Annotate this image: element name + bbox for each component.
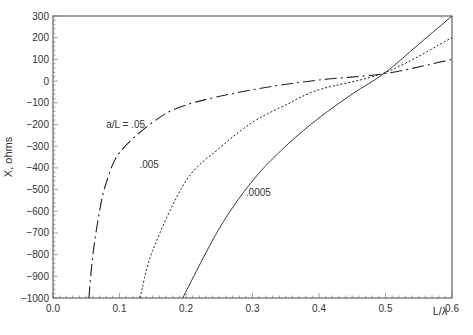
series-lines (89, 16, 452, 298)
y-tick-label: 200 (32, 32, 49, 43)
y-tick-label: −200 (26, 119, 49, 130)
annotations: a/L = .05.005.0005 (106, 119, 271, 198)
series-line (140, 38, 452, 298)
y-tick-label: −100 (26, 97, 49, 108)
x-tick-label: 0.1 (113, 303, 127, 314)
y-tick-label: −800 (26, 249, 49, 260)
y-tick-label: −300 (26, 141, 49, 152)
y-tick-label: −400 (26, 162, 49, 173)
y-tick-label: −700 (26, 227, 49, 238)
series-line (183, 16, 452, 298)
y-tick-label: −900 (26, 271, 49, 282)
series-line (89, 59, 452, 298)
y-tick-label: −600 (26, 206, 49, 217)
x-tick-label: 0.4 (312, 303, 326, 314)
x-tick-label: 0.0 (46, 303, 60, 314)
plot-frame (53, 16, 452, 298)
x-tick-label: 0.3 (246, 303, 260, 314)
x-tick-label: 0.2 (179, 303, 193, 314)
curve-label: .0005 (246, 187, 271, 198)
curve-label: a/L = .05 (106, 119, 145, 130)
x-axis-label: L/λ (433, 305, 448, 317)
reactance-chart: 0.00.10.20.30.40.50.63002001000−100−200−… (0, 0, 473, 335)
y-axis-label: X, ohms (2, 136, 14, 177)
y-tick-label: −500 (26, 184, 49, 195)
y-tick-label: 0 (43, 76, 49, 87)
y-tick-label: −1000 (21, 293, 50, 304)
x-tick-label: 0.5 (379, 303, 393, 314)
axes: 0.00.10.20.30.40.50.63002001000−100−200−… (21, 11, 459, 315)
y-tick-label: 300 (32, 11, 49, 22)
curve-label: .005 (139, 159, 159, 170)
y-tick-label: 100 (32, 54, 49, 65)
